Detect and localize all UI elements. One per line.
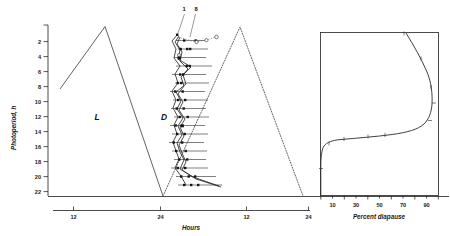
x-tick-label-12b: 12 bbox=[243, 214, 249, 220]
y-axis-title: Photoperiod, h bbox=[10, 105, 18, 150]
x-axis-ticks bbox=[74, 207, 309, 211]
region-label-dark: D bbox=[161, 112, 167, 122]
right-panel: 10 30 50 70 90 Percent diapause bbox=[319, 32, 439, 222]
region-label-light: L bbox=[94, 112, 99, 122]
diapause-axis-title: Percent diapause bbox=[353, 213, 406, 221]
y-tick-label-18: 18 bbox=[35, 159, 41, 165]
y-tick-label-14: 14 bbox=[35, 129, 42, 135]
secondary-response-line bbox=[175, 36, 219, 186]
diapause-tick-label-90: 90 bbox=[423, 202, 429, 208]
annotation-label-8: 8 bbox=[194, 6, 198, 12]
y-tick-label-12: 12 bbox=[35, 114, 41, 120]
diapause-response-curve bbox=[321, 33, 432, 195]
annotation-leaders bbox=[178, 14, 196, 37]
diapause-tick-label-50: 50 bbox=[376, 202, 382, 208]
left-panel: 2 4 6 8 10 12 14 16 18 20 22 Photoperiod… bbox=[10, 6, 449, 231]
y-tick-label-4: 4 bbox=[38, 54, 42, 60]
diapause-tick-label-70: 70 bbox=[400, 202, 406, 208]
dark-boundary-triangle bbox=[163, 27, 303, 196]
tertiary-response-line bbox=[177, 37, 221, 187]
light-boundary-triangle bbox=[60, 27, 163, 197]
y-tick-label-6: 6 bbox=[38, 69, 41, 75]
y-tick-label-10: 10 bbox=[35, 99, 41, 105]
y-tick-label-22: 22 bbox=[35, 189, 41, 195]
x-axis-title: Hours bbox=[182, 224, 201, 231]
diapause-tick-label-10: 10 bbox=[329, 202, 335, 208]
annotation-label-1: 1 bbox=[182, 6, 186, 12]
x-tick-label-24b: 24 bbox=[305, 214, 312, 220]
figure-root: 2 4 6 8 10 12 14 16 18 20 22 Photoperiod… bbox=[0, 0, 450, 236]
y-tick-label-2: 2 bbox=[38, 39, 41, 45]
x-tick-label-24a: 24 bbox=[157, 214, 164, 220]
diapause-curve-points bbox=[319, 32, 436, 169]
x-tick-label-12a: 12 bbox=[70, 214, 76, 220]
y-tick-label-16: 16 bbox=[35, 144, 41, 150]
y-tick-label-8: 8 bbox=[38, 84, 41, 90]
filled-data-markers bbox=[173, 34, 200, 187]
y-tick-label-20: 20 bbox=[35, 174, 41, 180]
photoperiod-diapause-figure: 2 4 6 8 10 12 14 16 18 20 22 Photoperiod… bbox=[0, 0, 450, 236]
diapause-tick-label-30: 30 bbox=[353, 202, 359, 208]
y-axis-ticks bbox=[44, 25, 49, 192]
